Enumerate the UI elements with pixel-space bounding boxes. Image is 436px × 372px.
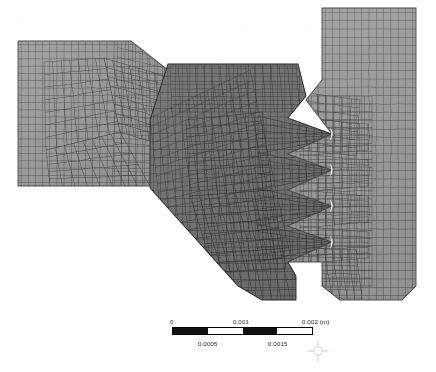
fea-mesh-render <box>0 0 436 372</box>
mesh-viewport: 0 0.001 0.002 (m) 0.0005 0.0015 <box>0 0 436 372</box>
